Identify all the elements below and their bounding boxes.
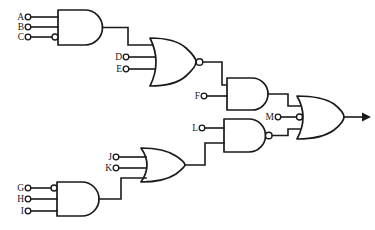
and-1-body	[58, 10, 103, 45]
circuit-output	[344, 113, 371, 122]
wire-and2-to-or2	[268, 94, 300, 106]
pin-label-h: H	[17, 194, 24, 204]
terminal-circle-l	[199, 125, 205, 131]
input-pin-e[interactable]: E	[116, 64, 155, 74]
and-3-body	[57, 182, 99, 216]
input-pin-i[interactable]: I	[21, 206, 57, 216]
wire-nand1-to-or2	[272, 129, 300, 136]
output-arrow-icon	[362, 113, 371, 122]
pin-label-g: G	[17, 183, 24, 193]
wire-path-nor1-and2	[203, 62, 227, 85]
terminal-circle-a	[25, 14, 31, 20]
gate-or-1	[141, 148, 185, 182]
wire-path-or1-nand1	[185, 143, 224, 165]
gate-nor-1	[150, 38, 203, 86]
wire-path-nand1-or2	[272, 129, 300, 136]
inversion-bubble-icon-m	[297, 114, 303, 120]
inversion-bubble-icon-c	[52, 34, 58, 40]
input-pin-b[interactable]: B	[18, 22, 58, 32]
terminal-circle-f	[201, 93, 207, 99]
circuit-canvas: A B C D E	[0, 0, 375, 230]
terminal-circle-m	[275, 114, 281, 120]
wire-or1-to-nand1	[185, 143, 224, 165]
terminal-circle-e	[123, 66, 129, 72]
inversion-bubble-icon-nand1-out	[266, 132, 273, 139]
input-pin-m[interactable]: M	[266, 112, 303, 122]
inversion-bubble-icon-nor1-out	[196, 59, 203, 66]
input-pin-h[interactable]: H	[17, 194, 57, 204]
pin-label-e: E	[116, 64, 122, 74]
pin-label-i: I	[21, 206, 24, 216]
input-pin-g[interactable]: G	[17, 183, 57, 193]
pin-label-m: M	[266, 112, 275, 122]
gate-nand-1	[224, 119, 272, 152]
wire-path-and2-or2	[268, 94, 300, 106]
gate-and-1	[58, 10, 103, 45]
pin-label-a: A	[17, 12, 24, 22]
input-pin-j[interactable]: J	[108, 152, 146, 162]
pin-label-f: F	[195, 91, 200, 101]
pin-label-l: L	[192, 123, 198, 133]
gate-and-2	[227, 78, 268, 110]
terminal-circle-j	[113, 154, 119, 160]
wire-path-and1-nor1	[103, 28, 154, 46]
input-pin-d[interactable]: D	[115, 52, 155, 62]
gate-or-2	[297, 96, 344, 139]
wire-and3-to-or1	[99, 178, 146, 199]
input-pin-c[interactable]: C	[18, 32, 58, 42]
or-1-body	[141, 148, 185, 182]
input-pin-k[interactable]: K	[105, 163, 146, 173]
wire-nor1-to-and2	[203, 62, 227, 85]
wire-path-and3-or1	[99, 178, 146, 199]
terminal-circle-i	[25, 208, 31, 214]
terminal-circle-k	[113, 165, 119, 171]
input-pin-f[interactable]: F	[195, 91, 227, 101]
pin-label-d: D	[115, 52, 122, 62]
and-2-body	[227, 78, 268, 110]
pin-label-b: B	[18, 22, 24, 32]
pin-label-c: C	[18, 32, 24, 42]
gate-and-3	[57, 182, 99, 216]
input-pin-a[interactable]: A	[17, 12, 58, 22]
or-2-body	[297, 96, 344, 139]
nand-1-body	[224, 119, 266, 152]
pin-label-j: J	[108, 152, 112, 162]
terminal-circle-c	[25, 34, 31, 40]
input-pin-l[interactable]: L	[192, 123, 224, 133]
logic-circuit-diagram: A B C D E	[0, 0, 375, 230]
terminal-circle-g	[25, 185, 31, 191]
terminal-circle-b	[25, 24, 31, 30]
terminal-circle-d	[123, 54, 129, 60]
pin-label-k: K	[105, 163, 112, 173]
wire-and1-to-nor1	[103, 28, 154, 46]
terminal-circle-h	[25, 196, 31, 202]
nor-1-body	[150, 38, 196, 86]
inversion-bubble-icon-g	[51, 185, 57, 191]
